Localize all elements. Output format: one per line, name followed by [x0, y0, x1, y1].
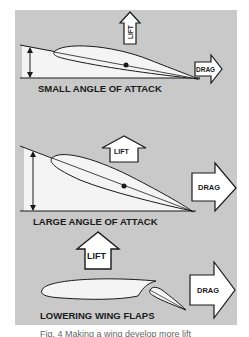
- drag-arrow-icon: DRAG: [190, 262, 235, 318]
- panel-title-wing-flaps: LOWERING WING FLAPS: [40, 310, 155, 321]
- figure-caption: Fig. 4 Making a wing develop more lift: [40, 327, 191, 337]
- large-angle-diagram: LIFT DRAG LARGE ANGLE OF ATTACK: [20, 136, 236, 227]
- wing-main: [42, 279, 156, 299]
- drag-label: DRAG: [196, 66, 215, 73]
- drag-label: DRAG: [197, 286, 219, 295]
- lift-arrow-icon: LIFT: [120, 12, 140, 44]
- drag-arrow-icon: DRAG: [192, 163, 236, 211]
- center-of-pressure: [124, 63, 129, 68]
- panel-title-large-angle: LARGE ANGLE OF ATTACK: [33, 216, 158, 227]
- wing-flaps-diagram: LIFT DRAG LOWERING WING FLAPS: [40, 232, 235, 321]
- drag-label: DRAG: [198, 183, 220, 192]
- lift-label: LIFT: [87, 251, 106, 261]
- panel-title-small-angle: SMALL ANGLE OF ATTACK: [38, 83, 162, 94]
- lift-arrow-icon: LIFT: [102, 136, 146, 162]
- lift-arrow-icon: LIFT: [77, 232, 119, 269]
- lift-label: LIFT: [114, 148, 129, 155]
- airfoil-diagram: LIFT DRAG SMALL ANGLE OF ATTACK LIFT DRA…: [0, 0, 249, 337]
- lift-label: LIFT: [127, 25, 134, 39]
- center-of-pressure: [122, 184, 127, 189]
- small-angle-diagram: LIFT DRAG SMALL ANGLE OF ATTACK: [20, 12, 222, 94]
